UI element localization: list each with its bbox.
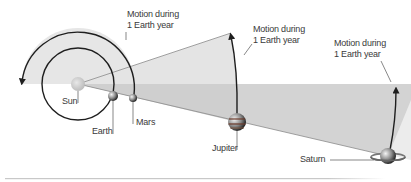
sun-icon bbox=[71, 77, 85, 91]
label-saturn: Saturn bbox=[300, 154, 325, 165]
motion-label-jupiter: Motion during 1 Earth year bbox=[253, 24, 305, 46]
jupiter-motion-leader bbox=[244, 44, 252, 55]
mars-icon bbox=[129, 94, 137, 102]
jupiter-icon bbox=[228, 113, 246, 131]
label-jupiter: Jupiter bbox=[212, 143, 238, 154]
saturn-motion-leader bbox=[381, 61, 391, 82]
motion-label-saturn: Motion during 1 Earth year bbox=[334, 38, 386, 60]
bottom-rule bbox=[5, 178, 385, 179]
planet-motion-diagram bbox=[0, 0, 411, 182]
label-mars: Mars bbox=[136, 117, 155, 128]
earth-icon bbox=[108, 91, 118, 101]
label-sun: Sun bbox=[62, 96, 77, 107]
motion-label-mars: Motion during 1 Earth year bbox=[127, 9, 179, 31]
label-earth: Earth bbox=[92, 126, 113, 137]
